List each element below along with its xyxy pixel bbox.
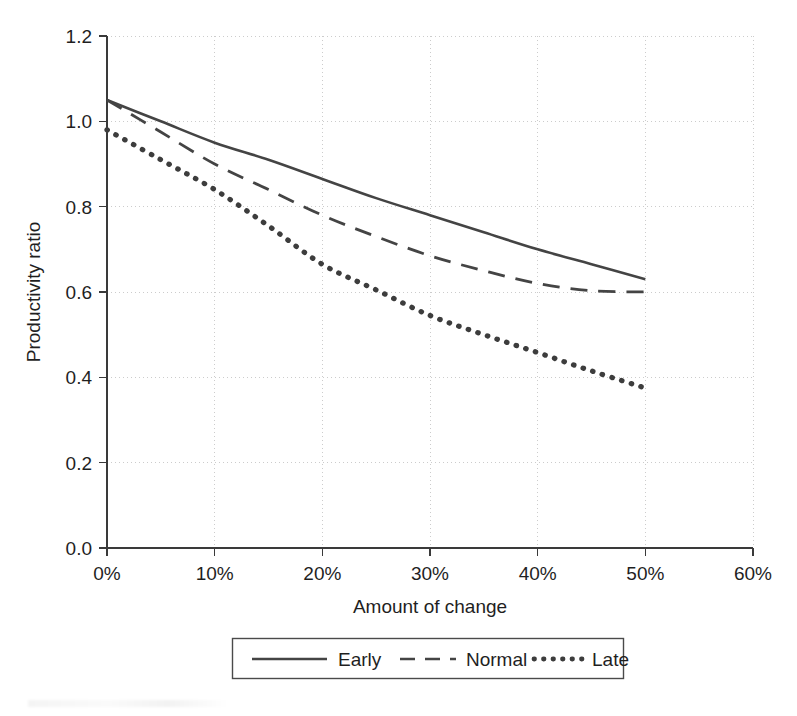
x-tick-label: 20% (303, 563, 341, 584)
y-tick-label: 0.8 (66, 197, 92, 218)
x-tick-label: 10% (196, 563, 234, 584)
tick-marks-group (99, 36, 753, 556)
legend: Early Normal Late (233, 639, 629, 679)
x-tick-labels-group: 0%10%20%30%40%50%60% (93, 563, 772, 584)
x-axis-title: Amount of change (353, 596, 507, 617)
x-tick-label: 40% (519, 563, 557, 584)
series-paths-group (107, 100, 645, 388)
series-line-early (107, 100, 645, 279)
y-tick-label: 0.2 (66, 453, 92, 474)
x-tick-label: 30% (411, 563, 449, 584)
scan-artifact (28, 700, 228, 707)
x-tick-label: 50% (626, 563, 664, 584)
series-line-normal (107, 100, 645, 292)
legend-label-normal: Normal (466, 649, 527, 670)
legend-label-early: Early (338, 649, 382, 670)
gridlines-group (107, 36, 753, 548)
y-tick-labels-group: 0.00.20.40.60.81.01.2 (66, 26, 93, 559)
y-tick-label: 0.6 (66, 282, 92, 303)
y-tick-label: 1.0 (66, 111, 92, 132)
chart-figure: 0.00.20.40.60.81.01.2 0%10%20%30%40%50%6… (0, 0, 797, 716)
y-tick-label: 1.2 (66, 26, 92, 47)
x-tick-label: 0% (93, 563, 121, 584)
legend-label-late: Late (592, 649, 629, 670)
y-axis-title: Productivity ratio (23, 222, 44, 362)
line-chart-svg: 0.00.20.40.60.81.01.2 0%10%20%30%40%50%6… (0, 0, 797, 716)
series-line-late (107, 130, 645, 388)
y-tick-label: 0.0 (66, 538, 92, 559)
x-tick-label: 60% (734, 563, 772, 584)
y-tick-label: 0.4 (66, 367, 93, 388)
